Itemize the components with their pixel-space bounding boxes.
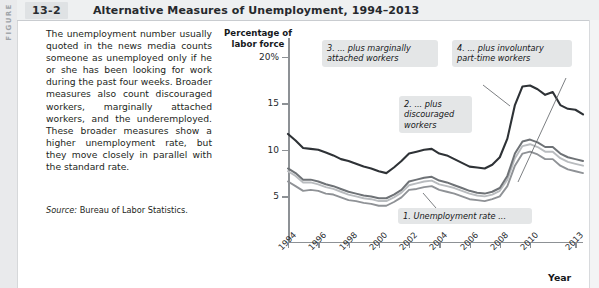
y-tick-mark: [282, 103, 288, 104]
annotation-involuntary-part-time: 4. ... plus involuntary part-time worker…: [452, 40, 572, 67]
y-axis-title-line1: Percentage of: [218, 28, 298, 39]
y-axis-title-line2: labor force: [218, 39, 298, 50]
page-edge: [589, 20, 599, 288]
figure-title: Alternative Measures of Unemployment, 19…: [93, 4, 419, 17]
y-tick-mark: [282, 196, 288, 197]
y-axis-title: Percentage of labor force: [218, 28, 298, 50]
x-axis-title: Year: [548, 272, 571, 283]
source-line: Source: Bureau of Labor Statistics.: [46, 205, 216, 216]
y-tick-mark: [282, 57, 288, 58]
figure-number: 13-2: [25, 2, 68, 19]
chart-container: Percentage of labor force 20%15105199419…: [218, 24, 590, 286]
y-tick-mark: [282, 150, 288, 151]
y-tick-label: 15: [268, 98, 279, 108]
y-tick-label: 20%: [259, 52, 279, 62]
figure-header: 13-2 Alternative Measures of Unemploymen…: [17, 0, 599, 21]
annotation-marginally-attached: 3. ... plus marginally attached workers: [322, 40, 438, 67]
source-prefix: Source:: [46, 205, 77, 215]
figure-spine: FIGURE: [0, 0, 18, 288]
caption-paragraph: The unemployment number usually quoted i…: [46, 28, 212, 173]
annotation-discouraged: 2. ... plus discouraged workers: [399, 96, 472, 133]
figure-page: FIGURE 13-2 Alternative Measures of Unem…: [0, 0, 599, 288]
source-text: Bureau of Labor Statistics.: [77, 205, 188, 215]
y-tick-label: 10: [268, 145, 279, 155]
y-tick-label: 5: [273, 191, 279, 201]
series-line: [288, 144, 583, 201]
figure-spine-label: FIGURE: [5, 0, 13, 49]
annotation-unemployment-rate: 1. Unemployment rate ...: [398, 208, 532, 224]
